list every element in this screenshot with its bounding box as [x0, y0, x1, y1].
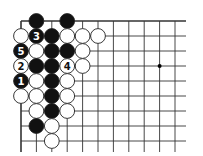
white-stone-move-2: 2: [14, 59, 29, 74]
black-stone-move-1: 1: [14, 74, 29, 89]
star-points: [158, 64, 162, 68]
black-stone: [44, 44, 59, 59]
white-stone: [29, 104, 44, 119]
white-stone: [44, 134, 59, 149]
white-stone: [60, 89, 75, 104]
black-stone: [29, 59, 44, 74]
black-stone: [29, 14, 44, 29]
white-stone: [60, 74, 75, 89]
white-stone: [14, 29, 29, 44]
black-stone: [60, 44, 75, 59]
move-number: 3: [33, 31, 40, 42]
white-stone: [91, 29, 106, 44]
star-point: [158, 64, 162, 68]
black-stone: [44, 104, 59, 119]
black-stone: [44, 29, 59, 44]
black-stone-move-5: 5: [14, 44, 29, 59]
move-number: 4: [64, 61, 71, 72]
black-stone: [60, 14, 75, 29]
white-stone: [75, 29, 90, 44]
white-stone: [75, 59, 90, 74]
white-stone: [60, 104, 75, 119]
white-stone: [29, 74, 44, 89]
move-number: 5: [18, 46, 25, 57]
white-stone: [29, 89, 44, 104]
move-number: 1: [18, 76, 25, 87]
white-stone: [60, 29, 75, 44]
black-stone: [44, 89, 59, 104]
white-stone-move-4: 4: [60, 59, 75, 74]
white-stone: [14, 89, 29, 104]
white-stone: [44, 119, 59, 134]
black-stone-move-3: 3: [29, 29, 44, 44]
white-stone: [75, 44, 90, 59]
white-stone: [29, 44, 44, 59]
black-stone: [29, 119, 44, 134]
go-board: 35241: [0, 0, 203, 156]
black-stone: [44, 59, 59, 74]
black-stone: [44, 74, 59, 89]
move-number: 2: [18, 61, 25, 72]
